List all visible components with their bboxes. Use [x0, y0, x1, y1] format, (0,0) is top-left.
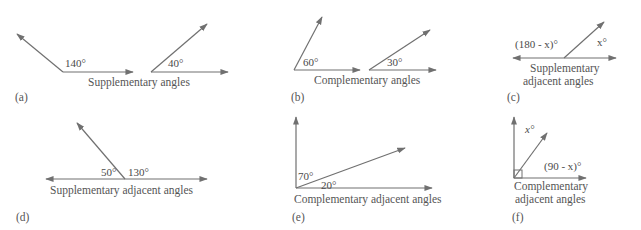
angle-label: 70° — [298, 170, 313, 182]
caption-line-1: Complementary — [514, 180, 588, 193]
angle-140: 140° — [17, 34, 133, 72]
angle-label: (180 - x)° — [515, 38, 558, 51]
angle-label: (90 - x)° — [544, 160, 581, 173]
panel-d: 50° 130° Supplementary adjacent angles (… — [16, 123, 207, 224]
panel-c: (180 - x)° x° Supplementary adjacent ang… — [507, 22, 616, 104]
angle-30: 30° — [369, 30, 436, 70]
panel-tag: (b) — [291, 91, 305, 104]
ray-arrow-icon — [17, 34, 63, 72]
caption: Supplementary angles — [88, 76, 190, 89]
caption-line-1: Supplementary — [530, 62, 600, 75]
panel-a: 140° 40° Supplementary angles (a) — [15, 24, 228, 104]
angle-60: 60° — [294, 17, 360, 70]
angle-label: 30° — [387, 56, 402, 68]
caption: Supplementary adjacent angles — [50, 184, 194, 197]
panel-b: 60° 30° Complementary angles (b) — [291, 17, 436, 104]
caption: Complementary angles — [314, 74, 421, 87]
panel-tag: (c) — [507, 91, 520, 104]
caption: Complementary adjacent angles — [294, 193, 442, 206]
panel-tag: (a) — [15, 91, 28, 104]
caption-line-2: adjacent angles — [515, 193, 586, 206]
panel-tag: (f) — [512, 211, 524, 224]
angle-diagram-figure: 140° 40° Supplementary angles (a) 60° 30… — [0, 0, 641, 230]
caption-line-2: adjacent angles — [523, 75, 594, 88]
angle-label: x° — [524, 123, 535, 135]
panel-f: x° (90 - x)° Complementary adjacent angl… — [512, 117, 588, 224]
angle-label: 40° — [168, 57, 183, 69]
angle-40: 40° — [151, 24, 228, 72]
angle-label: 140° — [65, 57, 86, 69]
panel-tag: (e) — [292, 211, 305, 224]
angle-label: 50° — [101, 166, 116, 178]
angle-label: 20° — [321, 179, 336, 191]
angle-label: 130° — [128, 166, 149, 178]
panel-e: 70° 20° Complementary adjacent angles (e… — [292, 117, 442, 224]
panel-tag: (d) — [16, 211, 30, 224]
angle-label: x° — [597, 36, 607, 48]
ray-arrow-icon — [514, 133, 547, 178]
angle-label: 60° — [303, 56, 318, 68]
ray-arrow-icon — [296, 148, 405, 188]
